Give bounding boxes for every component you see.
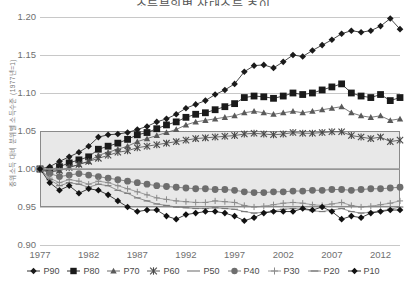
legend-item-p20[interactable]: P20 bbox=[307, 266, 340, 276]
data-point bbox=[173, 216, 180, 223]
data-point bbox=[339, 199, 345, 205]
data-point bbox=[329, 201, 335, 207]
series-line bbox=[40, 132, 400, 172]
data-point bbox=[280, 188, 287, 195]
data-point bbox=[202, 109, 209, 116]
data-point bbox=[192, 185, 199, 192]
data-point bbox=[309, 187, 316, 194]
data-point bbox=[105, 192, 112, 199]
data-point bbox=[115, 131, 122, 138]
data-point bbox=[212, 186, 219, 193]
triangle-icon bbox=[106, 266, 121, 276]
legend-item-p70[interactable]: P70 bbox=[106, 266, 139, 276]
data-point bbox=[387, 200, 393, 206]
legend-label: P30 bbox=[284, 266, 300, 276]
data-point bbox=[202, 97, 209, 104]
data-point bbox=[144, 129, 151, 136]
data-point bbox=[358, 204, 364, 210]
data-point bbox=[290, 52, 297, 59]
y-axis-tick-label: 1.10 bbox=[0, 87, 36, 98]
data-point bbox=[76, 178, 82, 184]
data-point bbox=[348, 110, 354, 116]
data-point bbox=[290, 199, 296, 205]
data-point bbox=[192, 111, 199, 118]
data-point bbox=[358, 93, 365, 100]
data-point bbox=[358, 29, 365, 36]
x-axis-tick-label: 1992 bbox=[175, 249, 196, 260]
data-point bbox=[367, 94, 374, 101]
legend-item-p40[interactable]: P40 bbox=[227, 266, 260, 276]
data-point bbox=[241, 188, 248, 195]
data-point bbox=[377, 91, 384, 98]
data-point bbox=[251, 62, 258, 69]
data-point bbox=[299, 205, 306, 212]
data-point bbox=[251, 108, 257, 114]
data-point bbox=[212, 198, 218, 204]
data-point bbox=[397, 184, 404, 191]
series-p30 bbox=[37, 166, 403, 210]
data-point bbox=[85, 172, 92, 179]
data-point bbox=[299, 188, 306, 195]
data-point bbox=[153, 125, 160, 132]
data-point bbox=[299, 91, 306, 98]
series-line bbox=[40, 169, 400, 207]
data-point bbox=[134, 179, 141, 186]
data-point bbox=[309, 47, 316, 54]
data-point bbox=[124, 129, 131, 136]
data-point bbox=[173, 118, 180, 125]
data-point bbox=[377, 185, 384, 192]
data-point bbox=[368, 203, 374, 209]
data-point bbox=[319, 42, 326, 49]
data-point bbox=[202, 199, 208, 205]
gridline bbox=[40, 245, 400, 246]
series-line bbox=[40, 19, 400, 169]
series-line bbox=[40, 107, 400, 172]
square-icon bbox=[66, 266, 81, 276]
data-point bbox=[144, 207, 151, 214]
plot-area bbox=[40, 17, 400, 245]
x-axis-tick-label: 2007 bbox=[321, 249, 342, 260]
data-point bbox=[270, 65, 277, 72]
star-icon bbox=[146, 266, 161, 276]
data-point bbox=[290, 208, 297, 215]
data-point bbox=[153, 207, 160, 214]
data-point bbox=[66, 164, 72, 171]
circle-icon bbox=[227, 266, 242, 276]
data-point bbox=[124, 178, 131, 185]
data-point bbox=[299, 53, 306, 60]
data-point bbox=[397, 94, 404, 101]
diamond-icon bbox=[347, 266, 362, 276]
legend-item-p50[interactable]: P50 bbox=[186, 266, 219, 276]
data-point bbox=[144, 192, 150, 198]
x-axis-tick-label: 1977 bbox=[29, 249, 50, 260]
data-point bbox=[338, 80, 345, 87]
data-point bbox=[183, 199, 189, 205]
data-point bbox=[260, 210, 267, 217]
data-point bbox=[183, 185, 190, 192]
data-point bbox=[105, 152, 111, 159]
data-point bbox=[222, 199, 228, 205]
data-point bbox=[251, 189, 258, 196]
data-point bbox=[56, 173, 63, 180]
series-p60 bbox=[37, 128, 403, 174]
data-point bbox=[251, 204, 257, 210]
data-point bbox=[105, 132, 112, 139]
data-point bbox=[153, 119, 160, 126]
legend-item-p60[interactable]: P60 bbox=[146, 266, 179, 276]
legend-item-p10[interactable]: P10 bbox=[347, 266, 380, 276]
data-point bbox=[280, 200, 286, 206]
data-point bbox=[387, 185, 394, 192]
data-point bbox=[192, 210, 199, 217]
data-point bbox=[221, 186, 228, 193]
data-point bbox=[192, 101, 199, 108]
legend-item-p90[interactable]: P90 bbox=[26, 266, 59, 276]
data-point bbox=[260, 62, 267, 69]
legend-item-p30[interactable]: P30 bbox=[267, 266, 300, 276]
data-point bbox=[153, 182, 160, 189]
data-point bbox=[173, 184, 180, 191]
data-point bbox=[270, 188, 277, 195]
legend-item-p80[interactable]: P80 bbox=[66, 266, 99, 276]
data-point bbox=[358, 214, 365, 221]
data-point bbox=[232, 199, 238, 205]
data-point bbox=[368, 210, 375, 217]
